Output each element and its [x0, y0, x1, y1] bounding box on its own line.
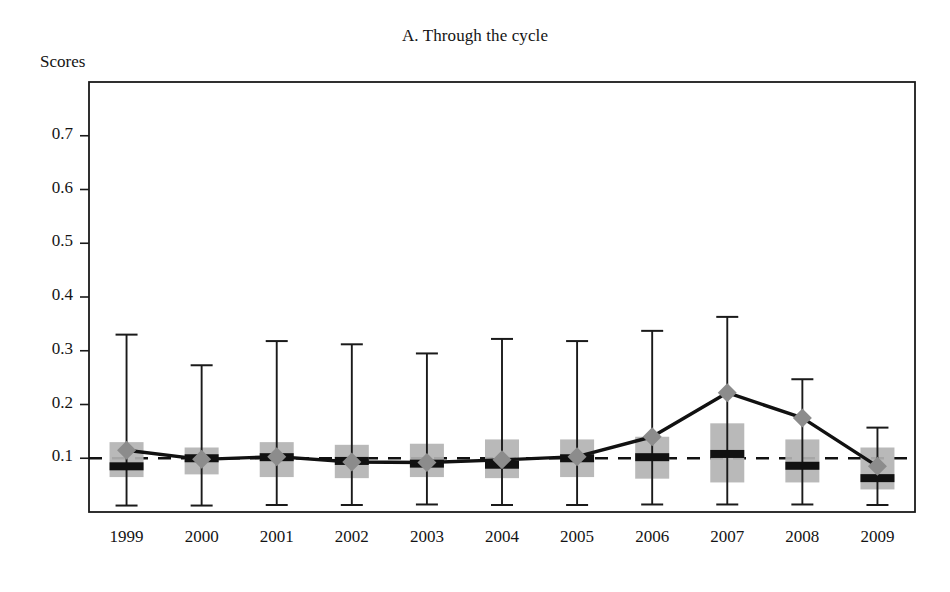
- box-plot-2007: [710, 317, 744, 505]
- y-tick-label-0.7: 0.7: [21, 124, 73, 144]
- y-tick-label-0.2: 0.2: [21, 393, 73, 413]
- box-plot-2002: [335, 344, 369, 505]
- box-plot-layer: [110, 317, 895, 506]
- y-tick-label-0.4: 0.4: [21, 285, 73, 305]
- box-plot-2005: [560, 341, 594, 505]
- box-plot-2001: [260, 341, 294, 505]
- y-tick-label-0.6: 0.6: [21, 178, 73, 198]
- y-tick-label-0.1: 0.1: [21, 446, 73, 466]
- mean-marker-2007: [718, 383, 737, 402]
- box-plot-1999: [110, 335, 144, 506]
- y-tick-label-0.5: 0.5: [21, 231, 73, 251]
- plot-svg: [0, 0, 950, 592]
- box-plot-2003: [410, 353, 444, 504]
- median-bar-2006: [635, 453, 669, 461]
- median-bar-1999: [110, 462, 144, 470]
- figure-container: A. Through the cycle Scores 0.10.20.30.4…: [0, 0, 950, 592]
- box-plot-2006: [635, 331, 669, 505]
- box-plot-2004: [485, 339, 519, 505]
- median-bar-2008: [785, 462, 819, 470]
- mean-marker-2008: [793, 408, 812, 427]
- box-plot-2008: [785, 379, 819, 504]
- y-tick-label-0.3: 0.3: [21, 339, 73, 359]
- box-plot-2000: [185, 365, 219, 505]
- median-bar-2007: [710, 450, 744, 458]
- x-tick-label-2009: 2009: [832, 527, 922, 547]
